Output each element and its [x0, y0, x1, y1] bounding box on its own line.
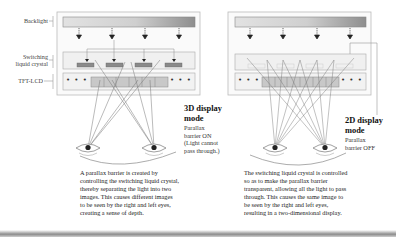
mode-label-2d: 2D display mode Parallax barrier OFF: [345, 116, 396, 151]
caption-3d: A parallax barrier is created by control…: [80, 169, 220, 218]
caption-2d-line: The switching liquid crystal is controll…: [244, 169, 396, 177]
mode-sub-3d-line2: barrier ON: [184, 132, 254, 140]
caption-3d-line: creating a sense of depth.: [80, 209, 220, 217]
mode-title-3d-line1: 3D display: [184, 104, 254, 114]
eye-pair-3d: [76, 144, 176, 164]
caption-2d-line: be seen by the right and left eyes,: [244, 201, 396, 209]
label-switching-lc-line2: liquid crystal: [0, 60, 48, 67]
label-backlight: Backlight: [0, 17, 48, 24]
mode-label-3d: 3D display mode Parallax barrier ON (Lig…: [184, 104, 254, 154]
caption-2d: The switching liquid crystal is controll…: [244, 169, 396, 218]
eye-pair-2d: [250, 144, 346, 165]
caption-3d-line: to be seen by the right and left eyes,: [80, 201, 220, 209]
backlight-bar-3d: [63, 17, 195, 27]
pixel-continuation-dots: • • •: [341, 76, 363, 84]
caption-2d-line: through. This causes the same image to: [244, 193, 396, 201]
caption-3d-line: A parallax barrier is created by: [80, 169, 220, 177]
pixel-continuation-dots: • • •: [66, 76, 88, 84]
caption-3d-line: images. This causes different images: [80, 193, 220, 201]
mode-title-3d-line2: mode: [184, 114, 254, 124]
pixel-continuation-dots: • • •: [238, 76, 260, 84]
mode-sub-3d-line3: (Light cannot: [184, 139, 254, 147]
bottom-edge-bar: [0, 230, 396, 237]
pixel-array-3d: [91, 77, 168, 87]
caption-2d-line: transparent, allowing all the light to p…: [244, 185, 396, 193]
mode-sub-3d-line4: pass through.): [184, 147, 254, 155]
caption-2d-line: so as to make the parallax barrier: [244, 177, 396, 185]
label-switching-lc-line1: Switching: [0, 53, 48, 60]
mode-sub-2d-line2: barrier OFF: [345, 144, 396, 152]
mode-title-2d-line1: 2D display: [345, 116, 396, 126]
caption-2d-line: resulting in a two-dimensional display.: [244, 209, 396, 217]
label-tft-lcd: TFT-LCD: [0, 77, 43, 84]
mode-title-2d-line2: mode: [345, 126, 396, 136]
caption-3d-line: thereby separating the light into two: [80, 185, 220, 193]
pixel-array-2d: [262, 77, 339, 87]
label-switching-lc: Switching liquid crystal: [0, 53, 48, 67]
mode-sub-2d-line1: Parallax: [345, 136, 396, 144]
pixel-continuation-dots: • • •: [170, 76, 192, 84]
panel-3d-graphic: [44, 12, 200, 164]
backlight-bar-2d: [235, 17, 366, 27]
caption-3d-line: controlling the switching liquid crystal…: [80, 177, 220, 185]
mode-sub-3d-line1: Parallax: [184, 124, 254, 132]
